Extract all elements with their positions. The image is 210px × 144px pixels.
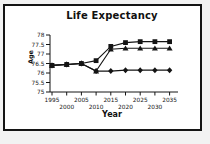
- y-tick-label: 77: [37, 51, 45, 57]
- x-tick-label: 2005: [74, 97, 89, 103]
- chart-frame: Life Expectancy Age Year 7575.57676.5777…: [3, 4, 202, 131]
- x-axis-ticks: 199520002005201020152020202520302035: [45, 92, 178, 110]
- square-marker: [94, 58, 99, 63]
- axes: [50, 35, 178, 92]
- y-tick-label: 75.5: [32, 80, 45, 86]
- x-tick-label: 1995: [45, 97, 60, 103]
- x-tick-label: 2010: [89, 104, 104, 110]
- x-tick-label: 2000: [59, 104, 74, 110]
- x-tick-label: 2020: [118, 104, 133, 110]
- y-tick-label: 75: [37, 89, 45, 95]
- y-tick-label: 78: [37, 32, 45, 38]
- y-tick-label: 77.5: [32, 42, 45, 48]
- diamond-marker: [152, 67, 157, 73]
- square-marker: [138, 39, 143, 44]
- x-tick-label: 2030: [148, 104, 163, 110]
- x-tick-label: 2015: [103, 97, 118, 103]
- chart-canvas: 7575.57676.57777.57819952000200520102015…: [5, 6, 200, 129]
- square-marker: [123, 40, 128, 45]
- y-axis-ticks: 7575.57676.57777.578: [32, 32, 50, 95]
- square-marker: [167, 39, 172, 44]
- square-marker: [153, 39, 158, 44]
- diamond-marker: [167, 67, 172, 73]
- y-tick-label: 76: [37, 70, 45, 76]
- y-tick-label: 76.5: [32, 61, 45, 67]
- x-tick-label: 2025: [133, 97, 148, 103]
- diamond-marker: [138, 67, 143, 73]
- diamond-marker: [108, 68, 113, 74]
- x-tick-label: 2035: [162, 97, 177, 103]
- diamond-marker: [123, 67, 128, 73]
